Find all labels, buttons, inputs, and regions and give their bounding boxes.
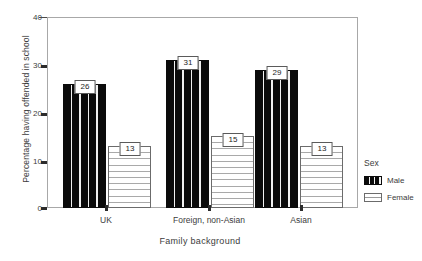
legend-swatch-female-icon	[364, 193, 382, 202]
y-tick-40	[39, 17, 47, 18]
legend-item-female: Female	[364, 192, 422, 203]
value-label-foreign-male: 31	[178, 56, 199, 70]
y-tick-label-20: 20	[12, 109, 42, 118]
y-tick-label-10: 10	[12, 157, 42, 166]
value-label-uk-female: 13	[120, 142, 141, 156]
x-axis-title: Family background	[0, 236, 400, 246]
x-tick-label-asian: Asian	[290, 215, 311, 225]
legend-label-female: Female	[387, 193, 414, 202]
bar-chart: Percentage having offended in school 40 …	[0, 0, 422, 261]
value-label-asian-female: 13	[312, 142, 333, 156]
bar-uk-male	[63, 84, 106, 208]
y-tick-label-30: 30	[12, 61, 42, 70]
bar-foreign-male	[166, 60, 209, 208]
x-tick-foreign	[208, 205, 211, 211]
legend-swatch-male-icon	[364, 176, 382, 185]
legend-title: Sex	[364, 158, 422, 168]
value-label-asian-male: 29	[267, 66, 288, 80]
x-tick-label-uk: UK	[100, 215, 112, 225]
x-tick-label-foreign: Foreign, non-Asian	[173, 215, 245, 225]
x-tick-uk	[105, 205, 108, 211]
bars-layer	[47, 17, 358, 208]
legend-label-male: Male	[387, 176, 404, 185]
legend-item-male: Male	[364, 175, 422, 186]
legend: Sex Male Female	[364, 158, 422, 209]
y-tick-label-0: 0	[12, 204, 42, 213]
value-label-uk-male: 26	[75, 80, 96, 94]
bar-asian-male	[255, 70, 298, 209]
x-tick-asian	[300, 205, 303, 211]
value-label-foreign-female: 15	[223, 133, 244, 147]
y-tick-label-40: 40	[12, 13, 42, 22]
bar-foreign-female	[211, 136, 254, 208]
